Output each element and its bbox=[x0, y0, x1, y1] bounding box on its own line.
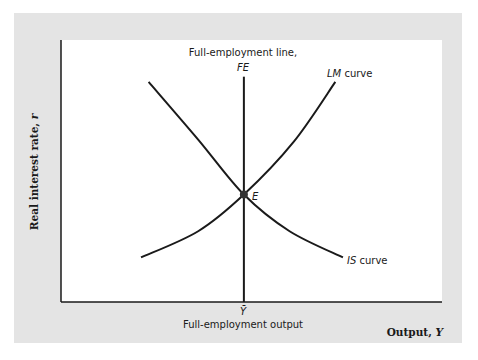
lm-label-rest: curve bbox=[341, 68, 372, 79]
lm-curve-label: LM curve bbox=[327, 68, 372, 79]
full-employment-output-label: Full-employment output bbox=[183, 319, 303, 330]
y-axis-label-var: r bbox=[28, 112, 40, 119]
fe-label-line1: Full-employment line, bbox=[189, 47, 297, 58]
y-bar-tick-label: Ȳ bbox=[240, 305, 247, 317]
y-axis-label-text: Real interest rate, bbox=[28, 119, 40, 230]
fe-label-line2: FE bbox=[237, 62, 250, 73]
is-curve-label: IS curve bbox=[347, 255, 388, 266]
x-axis-label-text: Output, bbox=[387, 326, 436, 338]
y-axis-label: Real interest rate, r bbox=[28, 112, 40, 230]
equilibrium-point-e bbox=[240, 191, 248, 199]
point-e-label: E bbox=[252, 191, 259, 202]
is-curve bbox=[149, 82, 343, 258]
is-lm-fe-diagram: Full-employment line, FE LM curve IS cur… bbox=[0, 0, 478, 360]
is-label-rest: curve bbox=[356, 255, 387, 266]
x-axis-label: Output, Y bbox=[387, 326, 445, 338]
lm-label-italic: LM bbox=[327, 68, 342, 79]
x-axis-label-var: Y bbox=[436, 326, 445, 338]
